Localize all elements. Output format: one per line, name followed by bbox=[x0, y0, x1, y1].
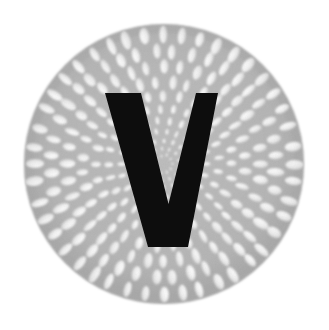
radial-petal-emblem: V bbox=[0, 0, 329, 330]
logo-canvas: V bbox=[0, 0, 329, 330]
disc-grain-overlay bbox=[24, 24, 304, 304]
